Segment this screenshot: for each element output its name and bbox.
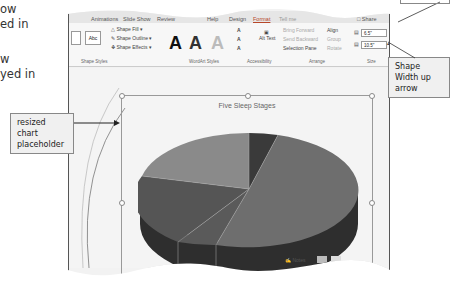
chart-placeholder[interactable]: Five Sleep Stages [121, 95, 373, 301]
slide-area: Five Sleep Stages [69, 68, 389, 268]
shape-fill-label: Shape Fill [116, 26, 138, 32]
accessibility-group-label: Accessibility [247, 59, 272, 64]
text-effects-icon[interactable]: A [237, 45, 241, 51]
send-backward-button[interactable]: Send Backward [283, 36, 318, 42]
shape-width-icon: ▤ [354, 41, 359, 47]
tab-format[interactable]: Format [253, 16, 270, 22]
shape-height-icon: ▤ [354, 29, 359, 35]
shape-style-prev[interactable] [71, 31, 81, 45]
callout-shape-width-up-arrow: Shape Width up arrow [388, 57, 450, 98]
tab-review[interactable]: Review [157, 16, 175, 22]
ribbon: Abc △ Shape Fill ▾ ✎ Shape Outline ▾ ❖ S… [69, 23, 389, 67]
alt-text-button[interactable]: ▣Alt Text [259, 29, 273, 41]
wordart-style-1[interactable]: A [169, 33, 182, 54]
resize-handle-left[interactable] [119, 200, 125, 206]
shape-style-abc[interactable]: Abc [85, 31, 101, 45]
shape-outline-button[interactable]: ✎ Shape Outline ▾ [111, 35, 152, 41]
selection-pane-button[interactable]: Selection Pane [283, 45, 317, 51]
resize-handle-right[interactable] [369, 200, 375, 206]
side-text-line2: ed in [0, 17, 29, 32]
callout-resized-chart-placeholder: resized chart placeholder [10, 113, 74, 154]
normal-view-button[interactable] [317, 256, 327, 263]
notes-label: Notes [292, 257, 305, 263]
callout-box-top-right [400, 0, 450, 4]
text-outline-icon[interactable]: A [237, 36, 241, 42]
slide-sorter-button[interactable] [331, 256, 341, 263]
powerpoint-window: Animations Slide Show Review Help Design… [68, 8, 390, 278]
text-fill-icon[interactable]: A [237, 27, 241, 33]
notes-button[interactable]: ✍ Notes [285, 257, 305, 263]
tab-slide-show[interactable]: Slide Show [123, 16, 151, 22]
shape-effects-button[interactable]: ❖ Shape Effects ▾ [111, 44, 152, 50]
tab-help[interactable]: Help [207, 16, 218, 22]
wordart-style-3[interactable]: A [211, 33, 224, 54]
shape-fill-button[interactable]: △ Shape Fill ▾ [111, 26, 143, 32]
align-button[interactable]: Align [327, 27, 338, 33]
callout-arrow-left [74, 118, 120, 128]
group-button[interactable]: Group [327, 36, 341, 42]
shape-outline-label: Shape Outline [116, 35, 148, 41]
tab-animations[interactable]: Animations [91, 16, 118, 22]
shape-styles-group-label: Shape Styles [81, 59, 108, 64]
side-text-line3: w [0, 52, 9, 67]
shape-effects-label: Shape Effects [116, 44, 147, 50]
arrange-group-label: Arrange [309, 59, 325, 64]
chart-title[interactable]: Five Sleep Stages [122, 102, 372, 109]
resize-handle-tl[interactable] [119, 93, 125, 99]
resize-handle-tr[interactable] [369, 93, 375, 99]
wordart-style-2[interactable]: A [189, 33, 202, 54]
resize-handle-top[interactable] [245, 93, 251, 99]
rotate-button[interactable]: Rotate [327, 45, 342, 51]
wordart-group-label: WordArt Styles [189, 59, 219, 64]
slide-canvas: Five Sleep Stages [69, 68, 389, 268]
side-text-line1: ow [0, 2, 16, 17]
bring-forward-button[interactable]: Bring Forward [283, 27, 314, 33]
side-text-line4: yed in [0, 67, 35, 82]
callout-arrows-right [360, 0, 450, 60]
tab-design[interactable]: Design [229, 16, 246, 22]
tell-me-search[interactable]: Tell me [279, 16, 296, 22]
alt-text-label: Alt Text [259, 35, 275, 41]
